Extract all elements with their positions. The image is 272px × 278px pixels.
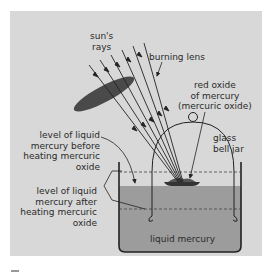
level-before-label: level of liquid mercury before heating m…	[23, 130, 100, 172]
bell-jar-line-1: glass	[213, 133, 244, 144]
bell-jar-knob	[189, 113, 198, 122]
red-oxide-label: red oxide of mercury (mercuric oxide)	[178, 80, 252, 112]
level-after-line-3: heating mercuric	[20, 207, 97, 218]
red-oxide-line-2: of mercury	[178, 91, 252, 102]
level-before-line-4: oxide	[23, 162, 100, 173]
red-oxide-line-3: (mercuric oxide)	[178, 101, 252, 112]
level-before-line-3: heating mercuric	[23, 151, 100, 162]
liquid-mercury-label: liquid mercury	[150, 234, 215, 245]
level-before-line-1: level of liquid	[23, 130, 100, 141]
level-after-line-4: oxide	[20, 218, 97, 229]
bell-jar-label: glass bell jar	[213, 133, 244, 154]
sun-rays-label: sun's rays	[90, 31, 113, 52]
level-after-label: level of liquid mercury after heating me…	[20, 186, 97, 228]
red-oxide-line-1: red oxide	[178, 80, 252, 91]
sun-rays-line-1: sun's	[90, 31, 113, 42]
burning-lens-label: burning lens	[149, 52, 205, 63]
bell-jar-line-2: bell jar	[213, 144, 244, 155]
level-after-line-1: level of liquid	[20, 186, 97, 197]
level-after-line-2: mercury after	[20, 197, 97, 208]
mercuric-oxide-experiment-diagram: sun's rays burning lens red oxide of mer…	[0, 0, 272, 278]
caption-fragment-mark	[11, 270, 19, 272]
sun-rays-line-2: rays	[90, 42, 113, 53]
level-before-line-2: mercury before	[23, 141, 100, 152]
